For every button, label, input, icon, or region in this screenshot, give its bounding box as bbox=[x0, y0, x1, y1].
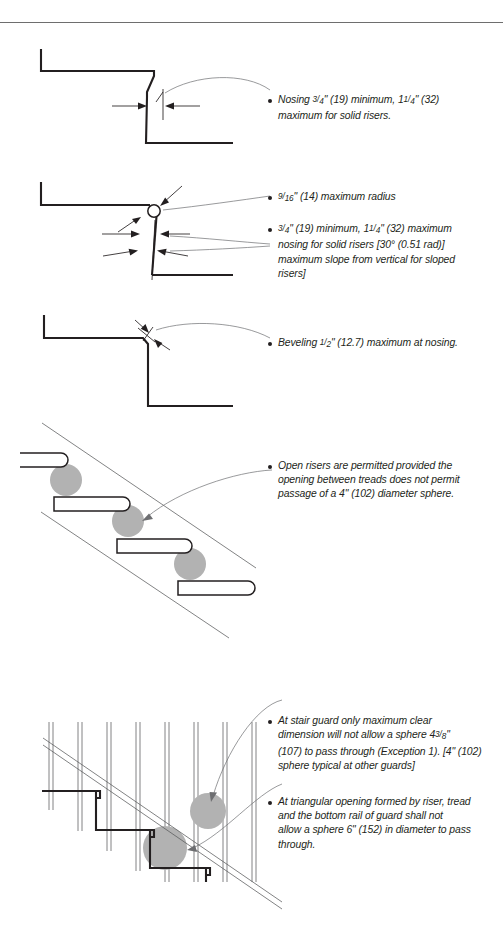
note-nosing-line-2: maximum for solid risers. bbox=[278, 110, 391, 121]
bullet-icon bbox=[268, 228, 272, 232]
note-radius: 9/16" (14) maximum radius bbox=[268, 190, 503, 206]
bullet-icon bbox=[268, 196, 272, 200]
leader-line-beveling bbox=[156, 323, 270, 338]
note-stair-guard-text: At stair guard only maximum clear dimens… bbox=[278, 714, 482, 773]
note-guard-line-2a: dimension will not allow a sphere 4 bbox=[278, 730, 435, 741]
fraction-numerator: 9 bbox=[278, 192, 282, 201]
fraction-numerator: 3 bbox=[278, 224, 282, 233]
dimension-arrowhead-left bbox=[138, 103, 147, 110]
note-open-risers-text: Open risers are permitted provided the o… bbox=[278, 459, 460, 502]
fraction-numerator: 1 bbox=[369, 224, 373, 233]
figure-radius-sloped-riser bbox=[30, 172, 270, 300]
leader-line-sloped-second bbox=[170, 246, 270, 251]
fraction-one-half: 1/2 bbox=[320, 338, 331, 347]
open-tread-1 bbox=[54, 497, 130, 511]
figure-nosing-solid-riser bbox=[30, 44, 270, 172]
header-divider-rule bbox=[0, 22, 503, 23]
note-nosing-text: Nosing 3/4" (19) minimum, 11/4" (32) max… bbox=[278, 93, 439, 124]
note-radius-text: 9/16" (14) maximum radius bbox=[278, 190, 396, 206]
note-bevel-part-1: Beveling bbox=[278, 337, 320, 348]
note-sloped-riser: 3/4" (19) minimum, 11/4" (32) maximum no… bbox=[268, 222, 503, 281]
note-triangular-line-3: allow a sphere 6" (152) in diameter to p… bbox=[278, 824, 471, 835]
note-sloped-line-2: nosing for solid risers [30° (0.51 rad)] bbox=[278, 239, 444, 250]
note-guard-line-2b: " bbox=[446, 730, 450, 741]
bullet-icon bbox=[268, 99, 272, 103]
upper-dimension-arrow-left bbox=[131, 231, 140, 238]
note-open-line-3: passage of a 4" (102) diameter sphere. bbox=[278, 488, 454, 499]
riser-leader-arrowhead bbox=[132, 217, 141, 224]
note-guard-line-4: sphere typical at other guards] bbox=[278, 760, 415, 771]
note-sloped-part-1: " (19) minimum, 1 bbox=[289, 223, 369, 234]
lower-dimension-arrow-right bbox=[157, 249, 167, 256]
fraction-one-quarter: 1/4 bbox=[404, 95, 415, 104]
illustration-page: Nosing 3/4" (19) minimum, 11/4" (32) max… bbox=[0, 0, 503, 946]
note-triangular-opening: At triangular opening formed by riser, t… bbox=[268, 795, 503, 852]
leader-line-open-risers bbox=[147, 470, 272, 517]
open-tread-0 bbox=[20, 453, 68, 467]
fraction-numerator: 3 bbox=[435, 730, 439, 739]
open-tread-3 bbox=[178, 581, 255, 595]
note-nosing-part-1: Nosing bbox=[278, 94, 313, 105]
leader-arrowhead-open-risers bbox=[142, 514, 153, 521]
note-sloped-line-4: risers] bbox=[278, 268, 306, 279]
bevel-arrowhead-lower bbox=[154, 339, 162, 348]
bullet-icon bbox=[268, 720, 272, 724]
lower-dimension-arrow-left bbox=[129, 249, 138, 256]
note-triangular-opening-text: At triangular opening formed by riser, t… bbox=[278, 795, 471, 852]
fraction-three-eighths: 3/8 bbox=[435, 730, 446, 739]
leader-line-sloped bbox=[170, 236, 270, 244]
bullet-icon bbox=[268, 801, 272, 805]
fraction-one-quarter: 1/4 bbox=[369, 224, 380, 233]
note-sloped-part-2: " (32) maximum bbox=[380, 223, 452, 234]
note-triangular-line-1: At triangular opening formed by riser, t… bbox=[278, 796, 471, 807]
note-guard-line-1: At stair guard only maximum clear bbox=[278, 715, 432, 726]
leader-line-radius bbox=[163, 196, 270, 210]
note-nosing-part-3: " (32) bbox=[415, 94, 439, 105]
bullet-icon bbox=[268, 465, 272, 469]
tread-profile bbox=[41, 182, 150, 205]
note-nosing-part-2: " (19) minimum, 1 bbox=[324, 94, 404, 105]
note-open-line-2: opening between treads does not permit bbox=[278, 474, 460, 485]
note-sloped-riser-text: 3/4" (19) minimum, 11/4" (32) maximum no… bbox=[278, 222, 455, 281]
note-bevel-part-2: " (12.7) maximum at nosing. bbox=[331, 337, 458, 348]
note-triangular-line-4: through. bbox=[278, 839, 315, 850]
fraction-numerator: 1 bbox=[404, 95, 408, 104]
note-open-line-1: Open risers are permitted provided the bbox=[278, 460, 452, 471]
fraction-three-quarters: 3/4 bbox=[313, 95, 324, 104]
fraction-numerator: 1 bbox=[320, 338, 324, 347]
leader-arrowhead-triangular-opening bbox=[187, 845, 197, 852]
sphere-between-treads-1 bbox=[50, 464, 82, 496]
bottom-rail-lower-line bbox=[43, 745, 282, 909]
note-sloped-line-3: maximum slope from vertical for sloped bbox=[278, 254, 455, 265]
figure-beveling bbox=[30, 300, 270, 422]
sphere-stair-guard-clear-opening bbox=[190, 793, 226, 829]
note-open-risers: Open risers are permitted provided the o… bbox=[268, 459, 503, 502]
open-tread-2 bbox=[117, 539, 192, 553]
bullet-icon bbox=[268, 342, 272, 346]
fraction-numerator: 3 bbox=[313, 95, 317, 104]
nosing-tick-mark bbox=[156, 92, 163, 102]
bottom-rail-upper-line bbox=[43, 738, 282, 902]
note-triangular-line-2: and the bottom rail of guard shall not bbox=[278, 810, 443, 821]
dimension-arrowhead-right bbox=[165, 103, 174, 110]
leader-line-nosing bbox=[165, 78, 270, 93]
note-beveling: Beveling 1/2" (12.7) maximum at nosing. bbox=[268, 336, 503, 352]
nosing-radius-circle bbox=[148, 205, 160, 217]
tread-riser-profile bbox=[41, 49, 233, 143]
note-guard-line-3: (107) to pass through (Exception 1). [4"… bbox=[278, 746, 482, 757]
note-nosing: Nosing 3/4" (19) minimum, 11/4" (32) max… bbox=[268, 93, 503, 124]
fraction-denominator: 16 bbox=[285, 194, 294, 203]
note-radius-rest: " (14) maximum radius bbox=[294, 191, 396, 202]
fraction-three-quarters: 3/4 bbox=[278, 224, 289, 233]
figure-open-risers bbox=[20, 420, 272, 642]
fraction-nine-sixteenths: 9/16 bbox=[278, 192, 294, 201]
note-stair-guard: At stair guard only maximum clear dimens… bbox=[268, 714, 503, 773]
upper-dimension-arrow-right bbox=[160, 231, 169, 238]
figure-guard-openings bbox=[30, 690, 282, 882]
note-beveling-text: Beveling 1/2" (12.7) maximum at nosing. bbox=[278, 336, 458, 352]
